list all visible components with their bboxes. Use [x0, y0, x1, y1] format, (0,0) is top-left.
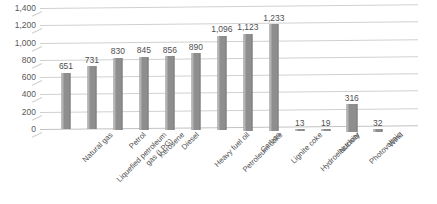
- bar-value-label: 1,123: [237, 23, 258, 32]
- bar-value-label: 32: [373, 119, 382, 128]
- bar-value-label: 830: [111, 47, 125, 56]
- x-axis-category-label: Lignite coke: [290, 131, 325, 166]
- bar-slot: 845: [131, 9, 156, 130]
- bar-slot: 1,233: [261, 10, 286, 131]
- bar: [139, 57, 148, 130]
- bar: [191, 53, 200, 130]
- bar: [61, 73, 70, 129]
- bar-value-label: 731: [85, 56, 99, 65]
- bar-slot: 856: [157, 9, 182, 130]
- bar-value-label: 1,233: [263, 14, 284, 23]
- bar-value-label: 1,096: [211, 25, 232, 34]
- bar-slot: 13: [287, 10, 312, 131]
- bar-slot: 651: [53, 8, 78, 129]
- bar-slot: 731: [79, 8, 104, 129]
- bar-value-label: 316: [345, 94, 359, 103]
- x-axis-category-label: Nuclear: [337, 131, 362, 156]
- bar: [217, 36, 226, 131]
- plot-area: 1,4001,2001,0008006004002000 65173183084…: [40, 8, 418, 129]
- x-axis-category-label: Natural gas: [81, 131, 115, 165]
- bar-slot: 1,096: [209, 9, 234, 130]
- bar: [165, 56, 174, 130]
- bar-series: 6517318308458568901,0961,1231,2331319316…: [40, 8, 418, 129]
- bar-slot: 32: [365, 11, 390, 132]
- y-axis-tick-label: 1,400: [15, 4, 36, 13]
- bar-value-label: 856: [163, 46, 177, 55]
- y-axis-tick-label: 200: [22, 107, 36, 116]
- bar-slot: 890: [183, 9, 208, 130]
- bar-value-label: 19: [321, 119, 330, 128]
- x-axis-category-labels: Natural gasLiquefied petroleum gas (LPG)…: [40, 131, 418, 204]
- bar-slot: 19: [313, 10, 338, 131]
- y-axis-tick-label: 400: [22, 90, 36, 99]
- bar: [269, 24, 278, 131]
- x-axis-category-label: Wind: [387, 131, 405, 149]
- bar: [346, 104, 357, 131]
- y-axis-tick-label: 1,000: [15, 38, 36, 47]
- bar: [243, 34, 252, 131]
- bar-value-label: 845: [137, 46, 151, 55]
- bar-slot: 316: [339, 11, 364, 132]
- bar-slot: 830: [105, 9, 130, 130]
- bar: [87, 66, 96, 129]
- bar-slot: 1,123: [235, 10, 260, 131]
- bar-value-label: 13: [295, 119, 304, 128]
- bar-value-label: 890: [189, 43, 203, 52]
- y-axis-tick-label: 800: [22, 56, 36, 65]
- bar: [113, 58, 122, 130]
- bar-value-label: 651: [59, 62, 73, 71]
- y-axis-tick-label: 1,200: [15, 21, 36, 30]
- y-axis-tick-label: 600: [22, 73, 36, 82]
- bar-chart: 1,4001,2001,0008006004002000 65173183084…: [0, 0, 437, 204]
- x-axis-category-label: Carbon: [259, 131, 283, 155]
- y-axis-tick-label: 0: [31, 125, 36, 134]
